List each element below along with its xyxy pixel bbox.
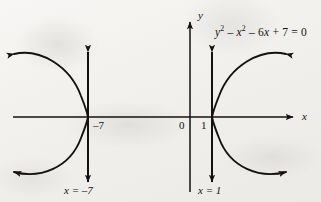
- tick-label-neg7: –7: [93, 120, 104, 131]
- equation-label: y2 – x2 – 6x + 7 = 0: [215, 27, 307, 39]
- tick-label-1: 1: [201, 120, 207, 131]
- y-axis-label: y: [198, 10, 203, 21]
- equation-x-exponent: 2: [242, 24, 246, 33]
- equation-y-exponent: 2: [220, 24, 224, 33]
- equation-minus-6: – 6: [249, 26, 264, 38]
- asymptote-label-x-neg7-text: x = –7: [64, 184, 93, 196]
- equation-constant: + 7 = 0: [272, 26, 307, 38]
- tick-label-origin: 0: [179, 120, 185, 131]
- graph-figure: x y –7 0 1 x = –7 x = 1 y2 – x2 – 6x + 7…: [0, 0, 321, 202]
- asymptote-label-x-1: x = 1: [198, 185, 221, 196]
- asymptote-label-x-1-text: x = 1: [198, 184, 221, 196]
- asymptote-label-x-neg7: x = –7: [64, 185, 93, 196]
- equation-minus-1: –: [228, 26, 234, 38]
- hyperbola-left-branch: [14, 53, 88, 174]
- hyperbola-right-branch: [212, 53, 286, 174]
- x-axis-label: x: [302, 111, 307, 122]
- equation-x-term-linear: x: [264, 26, 269, 38]
